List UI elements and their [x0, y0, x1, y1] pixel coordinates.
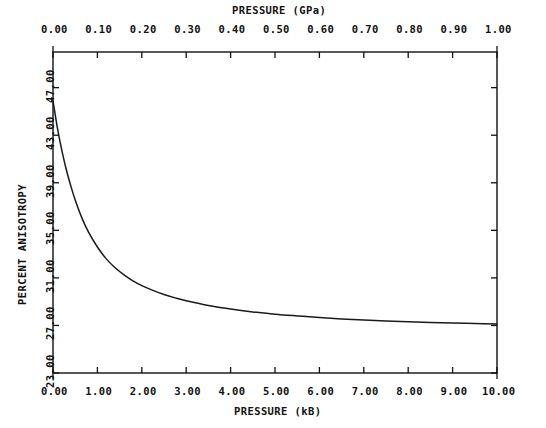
- plot-area: [0, 0, 546, 428]
- axis-ticks: [53, 46, 497, 379]
- plot-frame: [53, 52, 497, 373]
- figure-canvas: PRESSURE (GPa) 0.000.100.200.300.400.500…: [0, 0, 546, 428]
- data-series: [53, 101, 497, 324]
